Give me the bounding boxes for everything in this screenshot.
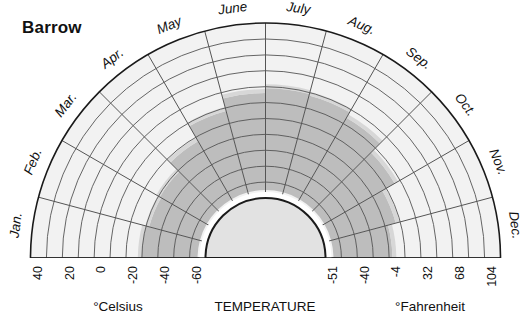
month-label: Nov. — [486, 146, 510, 176]
month-label: June — [216, 0, 248, 18]
chart-root: Barrow Jan.Feb.Mar.Apr.MayJuneJulyAug.Se… — [0, 0, 531, 325]
fahrenheit-tick-label: 68 — [453, 266, 467, 280]
polar-climate-chart: Jan.Feb.Mar.Apr.MayJuneJulyAug.Sep.Oct.N… — [0, 0, 531, 325]
month-label: Apr. — [97, 45, 126, 72]
month-label: Sep. — [403, 44, 434, 73]
fahrenheit-axis-caption: °Fahrenheit — [395, 299, 465, 314]
celsius-tick-label: 40 — [31, 266, 45, 280]
celsius-tick-label: -60 — [190, 266, 204, 284]
temperature-axis-caption: TEMPERATURE — [214, 299, 315, 314]
celsius-axis-caption: °Celsius — [93, 299, 143, 314]
celsius-tick-label: -20 — [126, 266, 140, 284]
celsius-tick-label: 20 — [63, 266, 77, 280]
month-label: July — [285, 0, 313, 17]
celsius-tick-label: -40 — [158, 266, 172, 284]
month-label: Oct. — [452, 90, 479, 119]
celsius-tick-label: 0 — [94, 266, 108, 273]
month-label: Mar. — [52, 90, 80, 120]
fahrenheit-tick-label: 104 — [485, 266, 499, 287]
month-label: Feb. — [21, 146, 45, 177]
fahrenheit-tick-label: -4 — [389, 266, 403, 277]
fahrenheit-tick-label: 32 — [421, 266, 435, 280]
month-label: Aug. — [345, 13, 377, 38]
month-label: May — [154, 13, 184, 37]
month-label: Dec. — [506, 210, 524, 239]
fahrenheit-tick-label: -40 — [358, 266, 372, 284]
month-label: Jan. — [6, 211, 24, 239]
fahrenheit-tick-label: -51 — [326, 266, 340, 284]
